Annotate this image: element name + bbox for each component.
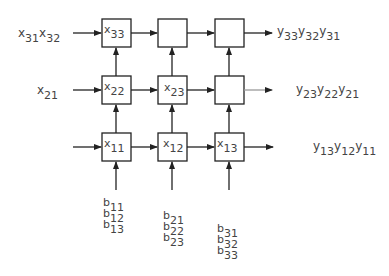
cell-label-x33: x33: [104, 24, 125, 40]
var-sub: 11: [111, 142, 125, 155]
var-base: b: [217, 244, 224, 257]
var-sub: 13: [110, 223, 124, 236]
var-sub: 33: [111, 28, 125, 41]
b-entry: b13: [103, 220, 124, 231]
var-sub: 31: [326, 30, 340, 43]
var-sub: 23: [303, 88, 317, 101]
var-sub: 23: [170, 236, 184, 249]
cell-box: [215, 76, 244, 104]
cell-label-x23: x23: [164, 82, 185, 98]
var-sub: 12: [170, 142, 184, 155]
var-base: b: [163, 231, 170, 244]
column-input-1: b11 b12 b13: [103, 198, 124, 231]
var-sub: 33: [224, 249, 238, 262]
var-sub: 21: [44, 89, 58, 102]
var-sub: 11: [362, 145, 376, 158]
b-entry: b23: [163, 233, 184, 244]
var-sub: 32: [305, 30, 319, 43]
var-sub: 13: [224, 142, 238, 155]
cell-label-x13: x13: [217, 138, 238, 154]
row-input-top: x31x32: [18, 27, 60, 44]
var-sub: 21: [345, 88, 359, 101]
cell-label-x11: x11: [104, 138, 125, 154]
var-sub: 13: [320, 145, 334, 158]
cell-box: [215, 19, 244, 47]
cell-label-x12: x12: [163, 138, 184, 154]
var-sub: 22: [324, 88, 338, 101]
column-input-3: b31 b32 b33: [217, 224, 238, 257]
var-sub: 22: [111, 85, 125, 98]
var-sub: 12: [341, 145, 355, 158]
column-input-2: b21 b22 b23: [163, 211, 184, 244]
cell-box: [158, 19, 187, 47]
var-sub: 33: [284, 30, 298, 43]
var-sub: 32: [46, 32, 60, 45]
row-output-bottom: y13y12y11: [313, 140, 376, 157]
row-output-top: y33y32y31: [277, 25, 340, 42]
b-entry: b33: [217, 246, 238, 257]
var-base: b: [103, 218, 110, 231]
var-sub: 23: [171, 86, 185, 99]
row-output-middle: y23y22y21: [296, 83, 359, 100]
var-sub: 31: [25, 32, 39, 45]
row-input-middle: x21: [37, 84, 58, 101]
cell-label-x22: x22: [104, 81, 125, 97]
